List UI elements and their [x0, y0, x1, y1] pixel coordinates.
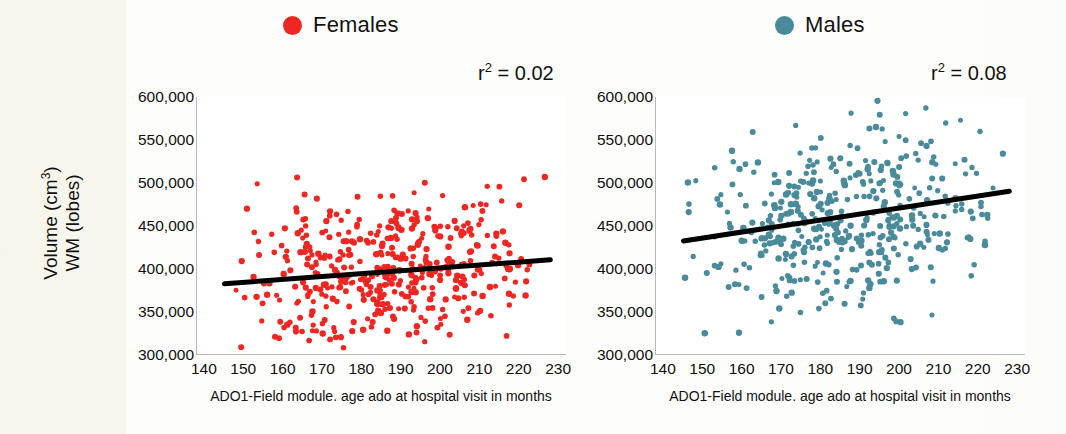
scatter-point	[382, 307, 388, 313]
scatter-point	[476, 222, 481, 227]
scatter-point	[835, 229, 841, 235]
scatter-point	[305, 294, 310, 299]
scatter-point	[485, 184, 490, 189]
scatter-point	[876, 271, 882, 277]
scatter-point	[959, 201, 965, 206]
scatter-point	[806, 181, 811, 186]
scatter-point	[847, 223, 853, 229]
scatter-point	[336, 285, 341, 290]
y-tick-label: 300,000	[138, 346, 194, 364]
scatter-point	[898, 155, 904, 161]
scatter-point	[965, 235, 970, 240]
scatter-point	[786, 170, 792, 176]
scatter-point	[776, 305, 782, 311]
scatter-point	[369, 324, 375, 329]
scatter-point	[813, 236, 819, 242]
scatter-point	[339, 218, 344, 223]
scatter-point	[479, 208, 485, 214]
x-tick-label: 210	[925, 360, 951, 378]
scatter-point	[425, 215, 431, 221]
scatter-point	[847, 161, 853, 167]
scatter-point	[409, 261, 415, 267]
scatter-point	[522, 292, 528, 298]
scatter-point	[467, 226, 473, 232]
scatter-point	[702, 330, 709, 337]
scatter-point	[448, 235, 454, 241]
scatter-point	[292, 284, 298, 290]
scatter-point	[391, 207, 397, 213]
scatter-point	[798, 277, 803, 282]
y-tick-label: 450,000	[138, 217, 194, 235]
scatter-point	[277, 297, 282, 302]
scatter-point	[309, 252, 314, 257]
scatter-point	[854, 235, 860, 241]
figure-scatter-wm-volume-by-age: Females Males Volume (cm3) WM (lobes) r2…	[0, 0, 1066, 434]
scatter-point	[814, 189, 820, 195]
scatter-point	[376, 229, 381, 234]
scatter-point	[461, 309, 466, 314]
scatter-point	[824, 239, 830, 245]
scatter-point	[865, 251, 871, 257]
scatter-point	[795, 208, 801, 214]
scatter-point	[918, 211, 923, 216]
scatter-point	[809, 211, 815, 217]
scatter-point	[935, 188, 940, 193]
x-axis-title-males: ADO1-Field module. age ado at hospital v…	[655, 388, 1025, 404]
scatter-point	[332, 267, 338, 273]
scatter-point	[454, 225, 460, 231]
scatter-point	[385, 236, 390, 241]
scatter-point	[253, 294, 259, 300]
scatter-point	[867, 171, 872, 176]
scatter-point	[847, 175, 852, 180]
scatter-point	[929, 312, 934, 317]
scatter-point	[963, 171, 968, 176]
scatter-point	[313, 270, 318, 275]
scatter-point	[276, 335, 282, 341]
scatter-point	[779, 276, 784, 281]
scatter-point	[438, 316, 443, 321]
scatter-point	[903, 153, 909, 159]
x-tick-label: 200	[427, 360, 453, 378]
scatter-point	[760, 221, 765, 226]
scatter-point	[777, 217, 783, 223]
scatter-point	[913, 265, 919, 271]
scatter-point	[930, 279, 935, 284]
scatter-point	[846, 233, 852, 239]
scatter-point	[398, 278, 403, 283]
y-tick-label: 600,000	[138, 88, 194, 106]
scatter-point	[464, 317, 471, 324]
scatter-point	[968, 209, 974, 215]
scatter-point	[806, 239, 812, 245]
scatter-point	[882, 199, 888, 205]
scatter-point	[759, 294, 765, 300]
scatter-point	[285, 258, 290, 263]
scatter-point	[423, 246, 429, 252]
scatter-point	[468, 258, 474, 264]
scatter-point	[991, 185, 996, 190]
scatter-point	[837, 155, 843, 161]
scatter-point	[928, 264, 934, 270]
scatter-point	[359, 287, 364, 292]
scatter-point	[940, 247, 946, 253]
scatter-point	[349, 238, 355, 244]
scatter-point	[863, 158, 868, 163]
scatter-point	[284, 248, 289, 253]
y-tick-label: 450,000	[597, 217, 653, 235]
scatter-point	[319, 292, 324, 297]
scatter-point	[384, 282, 389, 287]
scatter-point	[479, 293, 486, 300]
scatter-point	[393, 255, 398, 260]
scatter-point	[827, 156, 833, 162]
scatter-point	[738, 192, 743, 197]
scatter-point	[771, 202, 778, 209]
scatter-point	[885, 217, 891, 223]
scatter-point	[800, 179, 806, 185]
scatter-point	[791, 262, 797, 268]
scatter-point	[380, 301, 386, 307]
scatter-point	[496, 256, 501, 261]
scatter-point	[717, 201, 724, 208]
scatter-point	[922, 214, 927, 219]
scatter-point	[939, 175, 945, 181]
scatter-point	[736, 166, 742, 172]
scatter-point	[861, 290, 866, 295]
